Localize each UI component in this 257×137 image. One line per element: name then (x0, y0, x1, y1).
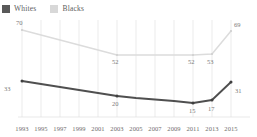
value-label-whites-2015: 31 (235, 87, 242, 94)
plot-svg (0, 18, 257, 120)
value-label-blacks-2013: 53 (207, 58, 214, 65)
x-tick-1999: 1999 (72, 125, 85, 133)
x-tick-2001: 2001 (91, 125, 104, 133)
x-tick-1993: 1993 (15, 125, 28, 133)
x-tick-2003: 2003 (110, 125, 123, 133)
value-label-blacks-1993: 70 (16, 19, 23, 26)
x-tick-2009: 2009 (167, 125, 180, 133)
series-line-blacks (22, 30, 231, 55)
value-label-blacks-2015: 69 (234, 21, 241, 28)
x-tick-2011: 2011 (186, 125, 199, 133)
legend-label-blacks: Blacks (62, 4, 84, 13)
series-markers-whites (21, 80, 233, 105)
line-chart: Whites Blacks (0, 0, 257, 137)
value-label-whites-2013: 17 (208, 105, 215, 112)
value-label-whites-1993: 33 (4, 85, 11, 92)
legend-item-blacks[interactable]: Blacks (50, 4, 84, 13)
series-line-whites (22, 81, 231, 103)
legend-label-whites: Whites (14, 4, 36, 13)
legend-swatch-blacks-icon (50, 5, 58, 13)
value-label-whites-2003: 20 (112, 100, 119, 107)
x-tick-1995: 1995 (34, 125, 47, 133)
x-tick-2013: 2013 (205, 125, 218, 133)
x-tick-2015: 2015 (224, 125, 237, 133)
x-tick-1997: 1997 (53, 125, 66, 133)
plot-area: 70 52 52 53 69 33 20 15 17 31 (0, 18, 257, 120)
value-label-blacks-2003: 52 (112, 58, 119, 65)
series-markers-blacks (21, 29, 232, 56)
value-label-blacks-2011: 52 (188, 58, 195, 65)
legend-item-whites[interactable]: Whites (2, 4, 36, 13)
x-tick-2007: 2007 (148, 125, 161, 133)
x-tick-2005: 2005 (129, 125, 142, 133)
value-label-whites-2011: 15 (189, 107, 196, 114)
x-axis: 1993 1995 1997 1999 2001 2003 2005 2007 … (0, 121, 257, 137)
legend-swatch-whites-icon (2, 5, 10, 13)
chart-legend: Whites Blacks (2, 2, 98, 15)
